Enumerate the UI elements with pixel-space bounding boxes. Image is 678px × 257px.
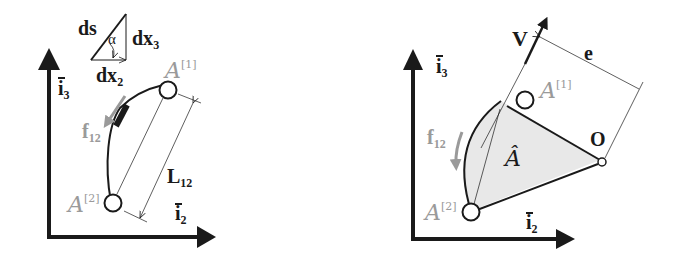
- swept-area: [464, 101, 600, 211]
- node-2: [105, 195, 122, 212]
- L12-label: L12: [167, 165, 192, 190]
- length-dimension: [140, 103, 193, 218]
- x-axis-arrow-icon: [556, 229, 575, 249]
- node-1: [517, 92, 534, 109]
- node-1: [160, 82, 177, 99]
- y-axis-arrow-icon: [38, 48, 60, 70]
- right-y-axis-label: i3: [436, 55, 448, 80]
- left-panel: i3 i2 ds α dx3 dx2: [38, 14, 216, 248]
- node-2-label: A[2]: [423, 200, 456, 225]
- left-y-axis-label: i3: [58, 77, 70, 102]
- area-label: Â: [503, 145, 521, 171]
- right-x-axis-label: i2: [526, 211, 538, 236]
- right-panel: i3 i2 V e O Â f12 A[1]: [403, 24, 643, 249]
- node-2-label: A[2]: [66, 192, 99, 217]
- y-axis-arrow-icon: [403, 49, 423, 70]
- diagram-canvas: i3 i2 ds α dx3 dx2: [0, 0, 678, 257]
- curve-segment: [108, 85, 163, 202]
- dx2-label: dx2: [96, 64, 123, 89]
- dx3-label: dx3: [132, 27, 159, 52]
- node-1-label: A[1]: [538, 78, 571, 103]
- f12-label: f12: [427, 126, 446, 151]
- node-1-label: A[1]: [163, 58, 196, 83]
- f12-label: f12: [82, 120, 101, 145]
- velocity-label: V: [512, 26, 528, 51]
- origin-point: [598, 158, 606, 166]
- left-x-axis-label: i2: [175, 202, 187, 227]
- eccentricity-label: e: [584, 42, 593, 64]
- x-axis-arrow-icon: [197, 226, 216, 248]
- origin-label: O: [590, 128, 606, 150]
- node-2: [463, 204, 480, 221]
- ds-label: ds: [78, 17, 97, 39]
- alpha-label: α: [108, 31, 116, 47]
- flux-arrow-icon: [456, 132, 462, 165]
